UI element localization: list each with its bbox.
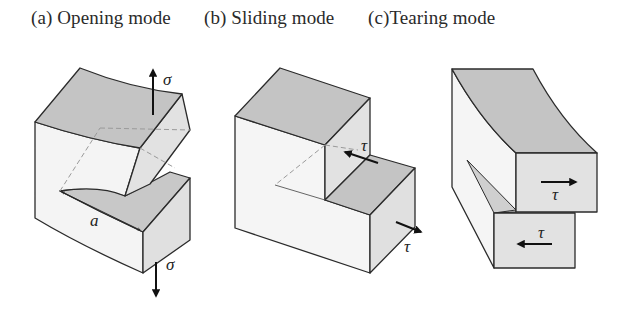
panel-c-tau-lower: τ [538,223,545,242]
fracture-modes-diagram: a σ σ τ τ [0,0,623,309]
panel-c-lower-front-face [494,213,575,268]
panel-a-crack-length-label: a [90,211,99,230]
panel-a-sigma-top: σ [163,70,172,89]
panel-a-sigma-bottom: σ [166,255,175,274]
panel-c-tau-upper: τ [552,185,559,204]
panel-b-tau-top: τ [361,136,368,155]
panel-b-tau-bottom: τ [404,237,411,256]
panel-b-sliding-mode: τ τ [235,68,421,273]
panel-a-opening-mode: a σ σ [35,68,190,296]
panel-c-tearing-mode: τ τ [452,69,597,268]
